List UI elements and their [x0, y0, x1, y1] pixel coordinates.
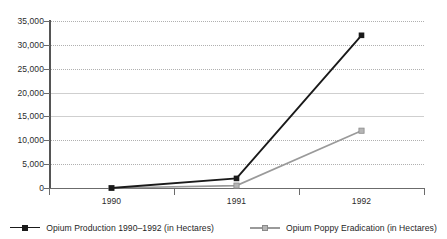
x-axis-label-1992: 1992	[332, 196, 392, 206]
legend-item-eradication: Opium Poppy Eradication (in Hectares)	[250, 223, 437, 233]
gridline-5000	[50, 164, 424, 165]
gridline-35000	[50, 21, 424, 22]
y-tick-10000	[44, 140, 50, 141]
y-tick-20000	[44, 93, 50, 94]
legend-swatch-eradication-icon	[250, 223, 280, 232]
y-tick-30000	[44, 45, 50, 46]
legend-swatch-production-icon	[10, 223, 40, 232]
chart-figure: 35,000 30,000 25,000 20,000 15,000 10,00…	[0, 0, 447, 239]
gridline-10000	[50, 140, 424, 141]
y-axis-label-30000: 30,000	[2, 41, 44, 50]
y-tick-35000	[44, 21, 50, 22]
x-axis-label-1990: 1990	[82, 196, 142, 206]
legend-item-production: Opium Production 1990–1992 (in Hectares)	[10, 223, 214, 233]
y-tick-5000	[44, 164, 50, 165]
gridline-20000	[50, 93, 424, 94]
y-axis-label-20000: 20,000	[2, 89, 44, 98]
y-tick-15000	[44, 116, 50, 117]
y-axis-label-25000: 25,000	[2, 65, 44, 74]
y-axis-label-10000: 10,000	[2, 136, 44, 145]
y-axis-label-15000: 15,000	[2, 112, 44, 121]
gridline-30000	[50, 45, 424, 46]
x-tick-1	[174, 188, 175, 195]
legend-label-production: Opium Production 1990–1992 (in Hectares)	[46, 223, 214, 233]
x-tick-start	[49, 188, 50, 195]
y-axis-label-35000: 35,000	[2, 17, 44, 26]
gridline-25000	[50, 69, 424, 70]
x-axis-label-1991: 1991	[207, 196, 267, 206]
x-tick-end	[424, 188, 425, 195]
plot-area	[50, 21, 424, 188]
y-axis-label-0: 0	[2, 184, 44, 193]
chart-legend: Opium Production 1990–1992 (in Hectares)…	[0, 216, 447, 239]
x-axis-line	[49, 188, 425, 189]
y-tick-25000	[44, 69, 50, 70]
x-tick-2	[299, 188, 300, 195]
y-axis-label-5000: 5,000	[2, 160, 44, 169]
legend-label-eradication: Opium Poppy Eradication (in Hectares)	[286, 223, 437, 233]
gridline-15000	[50, 116, 424, 117]
